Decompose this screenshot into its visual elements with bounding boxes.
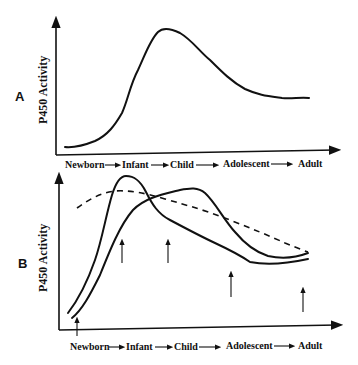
panel-b-x-axis <box>59 325 337 330</box>
stage-adult: Adult <box>298 158 323 169</box>
panel-b: B P450 Activity Newborn Infant Child Ado… <box>18 176 337 352</box>
stage-infant: Infant <box>126 341 153 352</box>
stage-child: Child <box>170 159 194 170</box>
stage-newborn: Newborn <box>70 341 110 352</box>
stage-infant: Infant <box>122 159 149 170</box>
panel-a-label: A <box>15 89 25 104</box>
panel-a-stage-labels: Newborn Infant Child Adolescent Adult <box>65 158 323 170</box>
panel-a-curve <box>65 29 309 147</box>
stage-adult: Adult <box>298 340 323 351</box>
panel-b-dashed-curve <box>77 191 308 252</box>
panel-b-label: B <box>18 256 27 271</box>
stage-adolescent: Adolescent <box>226 340 273 351</box>
panel-b-early-peak-curve <box>68 176 308 313</box>
panel-a-x-axis <box>56 150 335 155</box>
panel-a-y-axis-label: P450 Activity <box>36 56 50 124</box>
panel-a: A P450 Activity Newborn Infant Child Ado… <box>15 22 335 170</box>
figure: A P450 Activity Newborn Infant Child Ado… <box>0 0 358 365</box>
panel-b-late-peak-curve <box>72 188 308 318</box>
stage-child: Child <box>174 341 198 352</box>
panel-b-y-axis-label: P450 Activity <box>36 224 50 292</box>
stage-newborn: Newborn <box>65 159 105 170</box>
stage-adolescent: Adolescent <box>223 158 270 169</box>
panel-b-stage-labels: Newborn Infant Child Adolescent Adult <box>70 340 323 352</box>
